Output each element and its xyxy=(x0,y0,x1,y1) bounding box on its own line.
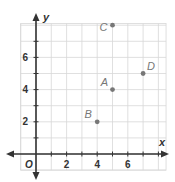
data-points: ABCD xyxy=(85,21,156,124)
x-tick-label: 2 xyxy=(64,159,70,170)
tick-marks xyxy=(34,41,159,156)
x-axis-left-arrow-icon xyxy=(6,151,14,158)
grid-lines xyxy=(21,24,166,171)
axes xyxy=(6,13,169,180)
x-axis-right-arrow-icon xyxy=(161,151,169,158)
tick-labels: 246246Oxy xyxy=(22,11,166,170)
x-tick-label: 6 xyxy=(125,159,131,170)
point-b xyxy=(95,119,100,124)
point-label-b: B xyxy=(85,108,92,120)
point-label-d: D xyxy=(147,60,155,72)
origin-label: O xyxy=(25,159,33,170)
y-tick-label: 6 xyxy=(22,52,28,63)
point-label-c: C xyxy=(100,21,108,33)
point-d xyxy=(141,71,146,76)
y-tick-label: 4 xyxy=(22,84,28,95)
y-axis-label: y xyxy=(42,11,50,23)
coordinate-plane: 246246Oxy ABCD xyxy=(0,0,175,182)
y-tick-label: 2 xyxy=(22,116,28,127)
y-axis-down-arrow-icon xyxy=(33,172,40,180)
point-label-a: A xyxy=(100,76,108,88)
point-c xyxy=(110,23,115,28)
x-axis-label: x xyxy=(158,136,166,148)
point-a xyxy=(110,87,115,92)
y-axis-up-arrow-icon xyxy=(33,13,40,21)
x-tick-label: 4 xyxy=(94,159,100,170)
grid-border xyxy=(21,24,166,171)
